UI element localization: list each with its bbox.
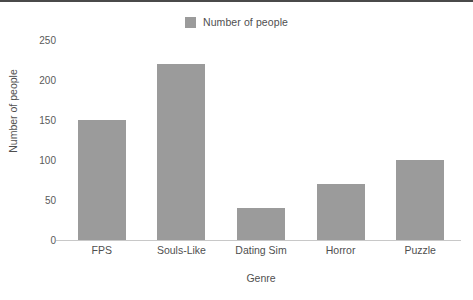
x-axis-tick-dating-sim: Dating Sim <box>221 244 301 256</box>
x-axis-tick-puzzle: Puzzle <box>380 244 460 256</box>
x-axis-title: Genre <box>62 272 460 284</box>
bar-horror[interactable] <box>317 184 365 240</box>
y-axis-tick-250: 250 <box>10 35 56 46</box>
bar-puzzle[interactable] <box>396 160 444 240</box>
y-axis-title: Number of people <box>7 51 19 171</box>
chart-legend: Number of people <box>0 14 473 30</box>
bar-slot-horror <box>301 40 381 240</box>
bar-chart: Number of people 250 200 150 100 50 0 Nu… <box>0 0 473 300</box>
bar-fps[interactable] <box>78 120 126 240</box>
legend-label-number-of-people: Number of people <box>203 16 288 28</box>
bar-slot-dating-sim <box>221 40 301 240</box>
x-axis-baseline <box>62 240 461 241</box>
x-axis-tick-horror: Horror <box>301 244 381 256</box>
x-axis-tick-souls-like: Souls-Like <box>142 244 222 256</box>
bar-slot-puzzle <box>380 40 460 240</box>
bar-dating-sim[interactable] <box>237 208 285 240</box>
top-border-rule <box>0 0 473 2</box>
y-axis-tick-50: 50 <box>10 195 56 206</box>
bar-souls-like[interactable] <box>157 64 205 240</box>
legend-swatch-icon <box>185 17 196 28</box>
x-axis-tick-labels: FPS Souls-Like Dating Sim Horror Puzzle <box>62 244 460 260</box>
x-axis-tick-fps: FPS <box>62 244 142 256</box>
bar-slot-souls-like <box>142 40 222 240</box>
plot-area <box>62 40 460 240</box>
bar-slot-fps <box>62 40 142 240</box>
y-axis-tick-0: 0 <box>10 235 56 246</box>
